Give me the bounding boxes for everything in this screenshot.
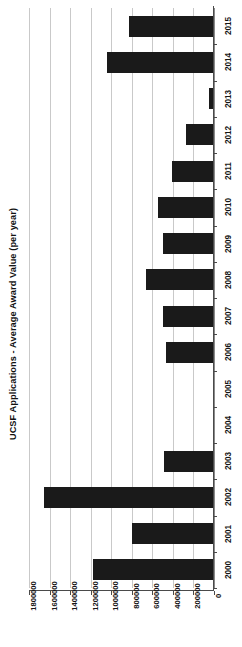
- bar-row: [29, 197, 214, 218]
- category-tick-label-text: 2003: [224, 452, 233, 470]
- category-tick-label-text: 2014: [224, 53, 233, 71]
- bar[interactable]: [129, 16, 214, 37]
- category-tick-label: 2015: [216, 19, 240, 33]
- category-tick: [214, 588, 217, 589]
- bar[interactable]: [172, 161, 214, 182]
- bar-row: [29, 342, 214, 363]
- category-tick-label-text: 2010: [224, 198, 233, 216]
- category-tick: [214, 552, 217, 553]
- category-tick-label-text: 2006: [224, 343, 233, 361]
- value-tick-label: 1000000: [104, 596, 118, 644]
- value-tick-label: 600000: [145, 596, 159, 644]
- value-tick-label-text: 1600000: [50, 581, 59, 611]
- category-tick-label: 2011: [216, 164, 240, 178]
- category-tick-label: 2005: [216, 382, 240, 396]
- bar[interactable]: [186, 124, 214, 145]
- category-tick-label-text: 2009: [224, 235, 233, 253]
- value-tick-label: 1200000: [84, 596, 98, 644]
- bar-row: [29, 269, 214, 290]
- category-tick-label-text: 2001: [224, 525, 233, 543]
- bar-row: [29, 451, 214, 472]
- bar-row: [29, 487, 214, 508]
- value-tick-label-text: 0: [214, 594, 223, 598]
- category-tick: [214, 334, 217, 335]
- category-tick-label-text: 2011: [224, 162, 233, 180]
- category-tick-label-text: 2000: [224, 561, 233, 579]
- bar[interactable]: [146, 269, 214, 290]
- bar-row: [29, 233, 214, 254]
- bar[interactable]: [158, 197, 214, 218]
- category-tick-label-text: 2004: [224, 416, 233, 434]
- bar-row: [29, 559, 214, 580]
- chart-title-container: UCSF Applications - Average Award Value …: [0, 0, 26, 647]
- bar-row: [29, 414, 214, 435]
- bar-row: [29, 161, 214, 182]
- value-tick-label-text: 1800000: [29, 581, 38, 611]
- category-tick-label: 2004: [216, 418, 240, 432]
- category-tick: [214, 371, 217, 372]
- category-tick-label-text: 2007: [224, 307, 233, 325]
- category-tick-label: 2003: [216, 454, 240, 468]
- value-tick-label: 200000: [186, 596, 200, 644]
- category-tick-label-text: 2005: [224, 380, 233, 398]
- value-tick-label: 1400000: [63, 596, 77, 644]
- plot-area: [29, 8, 214, 588]
- value-tick-label-text: 1000000: [111, 581, 120, 611]
- category-tick-label-text: 2002: [224, 488, 233, 506]
- bar[interactable]: [44, 487, 214, 508]
- category-tick-label-text: 2008: [224, 271, 233, 289]
- category-tick-label: 2009: [216, 237, 240, 251]
- category-tick-label: 2000: [216, 563, 240, 577]
- value-tick-label-text: 800000: [132, 583, 141, 608]
- category-tick: [214, 516, 217, 517]
- category-tick: [214, 189, 217, 190]
- category-tick-label: 2008: [216, 273, 240, 287]
- category-tick: [214, 479, 217, 480]
- bar[interactable]: [132, 523, 214, 544]
- bar-row: [29, 88, 214, 109]
- page-title: UCSF Applications - Average Award Value …: [8, 207, 18, 439]
- bar[interactable]: [163, 306, 214, 327]
- category-tick-label-text: 2013: [224, 90, 233, 108]
- category-tick-label: 2007: [216, 309, 240, 323]
- category-tick: [214, 226, 217, 227]
- bar[interactable]: [164, 451, 214, 472]
- bar-row: [29, 124, 214, 145]
- bar-row: [29, 52, 214, 73]
- category-tick: [214, 443, 217, 444]
- bar-row: [29, 378, 214, 399]
- value-tick-label: 400000: [166, 596, 180, 644]
- value-tick-label-text: 1400000: [70, 581, 79, 611]
- value-tick-label: 1800000: [22, 596, 36, 644]
- bar-row: [29, 523, 214, 544]
- category-tick: [214, 153, 217, 154]
- category-tick-label-text: 2015: [224, 17, 233, 35]
- category-tick-label: 2014: [216, 55, 240, 69]
- value-tick-label: 1600000: [43, 596, 57, 644]
- category-tick-label: 2012: [216, 128, 240, 142]
- category-tick: [214, 44, 217, 45]
- bar[interactable]: [93, 559, 214, 580]
- category-tick-label: 2013: [216, 92, 240, 106]
- category-tick: [214, 81, 217, 82]
- bar[interactable]: [166, 342, 214, 363]
- bar-row: [29, 16, 214, 37]
- category-tick-label: 2006: [216, 345, 240, 359]
- value-tick-label: 0: [207, 596, 221, 644]
- category-tick: [214, 117, 217, 118]
- category-tick-label: 2001: [216, 527, 240, 541]
- category-tick-label-text: 2012: [224, 126, 233, 144]
- bar[interactable]: [163, 233, 214, 254]
- bar-chart: UCSF Applications - Average Award Value …: [0, 0, 242, 647]
- category-tick-label: 2010: [216, 200, 240, 214]
- value-tick-label-text: 400000: [173, 583, 182, 608]
- category-tick: [214, 262, 217, 263]
- category-tick-label: 2002: [216, 490, 240, 504]
- bar[interactable]: [107, 52, 214, 73]
- value-tick-label-text: 200000: [193, 583, 202, 608]
- value-tick-label-text: 600000: [152, 583, 161, 608]
- category-tick: [214, 407, 217, 408]
- value-tick-label: 800000: [125, 596, 139, 644]
- category-tick: [214, 298, 217, 299]
- bar-row: [29, 306, 214, 327]
